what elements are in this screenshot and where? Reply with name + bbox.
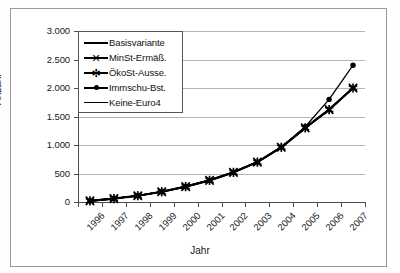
x-axis-title: Jahr — [0, 245, 400, 256]
legend-key-line-dot-marker — [83, 81, 109, 95]
legend-line-swatch — [84, 102, 108, 104]
star-marker-icon: ✻ — [91, 67, 100, 78]
x-axis-tick — [198, 203, 199, 207]
legend-key-line-thin — [83, 96, 109, 110]
y-axis-tick-label: 0 — [22, 197, 70, 206]
x-axis-tick — [269, 203, 270, 207]
legend-item: ✕MinSt-Ermäß. — [79, 50, 182, 65]
legend-key-line-thick — [83, 36, 109, 50]
y-axis-tick-label: 2.500 — [22, 55, 70, 64]
legend-item: ✻ÖkoSt-Ausse. — [79, 65, 182, 80]
legend-line-swatch — [84, 42, 108, 44]
legend-item-label: Basisvariante — [109, 37, 165, 48]
x-axis-tick — [293, 203, 294, 207]
x-axis-tick — [365, 203, 366, 207]
legend-item: Keine-Euro4 — [79, 95, 182, 110]
y-axis-tick-label: 2.000 — [22, 83, 70, 92]
legend-item: Basisvariante — [79, 35, 182, 50]
legend-key-line-star-marker: ✻ — [83, 66, 109, 80]
gridline — [78, 174, 365, 175]
chart-screenshot: Anzahl 05001.0001.5002.0002.5003.000 199… — [0, 0, 400, 273]
chart-legend: Basisvariante✕MinSt-Ermäß.✻ÖkoSt-Ausse.I… — [78, 31, 183, 113]
y-axis-tick-label: 500 — [22, 169, 70, 178]
x-axis-tick — [222, 203, 223, 207]
legend-item-label: Immschu-Bst. — [109, 82, 166, 93]
y-axis-tick-label: 1.500 — [22, 112, 70, 121]
x-marker-icon: ✕ — [91, 52, 100, 63]
legend-item: Immschu-Bst. — [79, 80, 182, 95]
gridline — [78, 117, 365, 118]
legend-key-line-x-marker: ✕ — [83, 51, 109, 65]
legend-item-label: Keine-Euro4 — [109, 97, 161, 108]
legend-item-label: ÖkoSt-Ausse. — [109, 67, 166, 78]
legend-item-label: MinSt-Ermäß. — [109, 52, 166, 63]
y-axis-tick-label: 3.000 — [22, 26, 70, 35]
x-axis-tick — [126, 203, 127, 207]
y-axis-title: Anzahl — [0, 74, 3, 105]
y-axis-tick-label: 1.000 — [22, 140, 70, 149]
x-axis-tick — [341, 203, 342, 207]
gridline — [78, 145, 365, 146]
x-axis-tick — [78, 203, 79, 207]
x-axis-tick — [317, 203, 318, 207]
x-axis-tick — [102, 203, 103, 207]
x-axis-tick — [150, 203, 151, 207]
dot-marker-icon — [94, 85, 99, 90]
x-axis-tick — [245, 203, 246, 207]
x-axis-tick — [174, 203, 175, 207]
